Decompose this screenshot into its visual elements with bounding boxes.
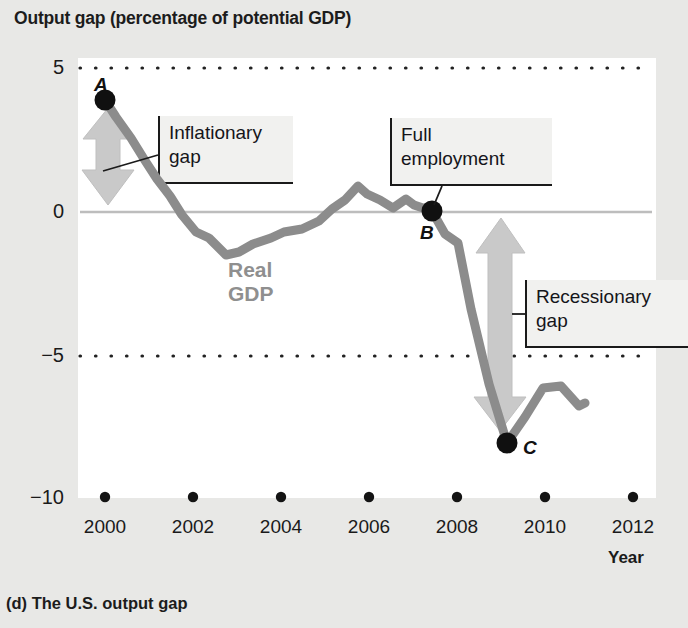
y-tick-label-0: 0 (18, 200, 64, 223)
callout-recessionary-gap: Recessionary gap (525, 280, 688, 348)
x-tick-label-2008: 2008 (413, 516, 501, 538)
series-label-line2: GDP (228, 282, 274, 305)
figure-us-output-gap: Output gap (percentage of potential GDP)… (0, 0, 688, 628)
point-label-b: B (420, 222, 434, 244)
chart-title: Output gap (percentage of potential GDP) (14, 8, 351, 29)
x-tick-label-2004: 2004 (237, 516, 325, 538)
point-label-c: C (523, 437, 537, 459)
figure-caption: (d) The U.S. output gap (6, 594, 187, 613)
callout-full-employment: Full employment (390, 118, 552, 186)
y-tick-label-neg5: −5 (12, 344, 64, 367)
y-tick-label-neg10: −10 (4, 486, 64, 509)
x-tick-label-2012: 2012 (589, 516, 677, 538)
x-tick-label-2006: 2006 (325, 516, 413, 538)
point-label-a: A (94, 74, 108, 96)
series-label-real-gdp: RealGDP (228, 258, 274, 305)
x-tick-label-2002: 2002 (149, 516, 237, 538)
callout-inflationary-gap: Inflationary gap (158, 116, 293, 184)
x-tick-label-2000: 2000 (61, 516, 149, 538)
series-label-line1: Real (228, 258, 272, 281)
y-tick-label-5: 5 (18, 56, 64, 79)
x-tick-label-2010: 2010 (501, 516, 589, 538)
x-axis-title: Year (608, 548, 644, 568)
